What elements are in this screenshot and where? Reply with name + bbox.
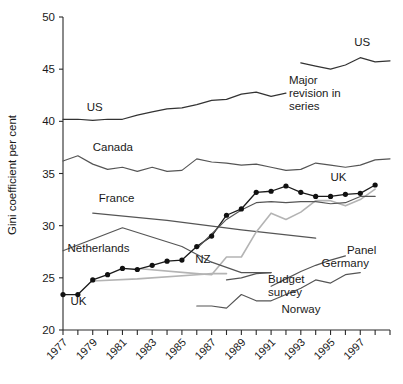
y-axis-tick-label: 50 (42, 11, 55, 23)
series-marker (239, 206, 244, 211)
major-revision-note-line: revision in (289, 87, 341, 99)
y-axis-tick-label: 25 (42, 272, 55, 284)
series-label-uk-secondary: UK (331, 171, 347, 183)
major-revision-note-line: series (289, 100, 320, 112)
series-marker (343, 192, 348, 197)
series-label-canada: Canada (93, 141, 134, 153)
series-label-germany: Germany (322, 257, 370, 269)
series-marker (209, 234, 214, 239)
series-marker (254, 190, 259, 195)
series-marker (194, 244, 199, 249)
series-label-budget-survey: Budgetsurvey (268, 273, 305, 298)
series-label-netherlands: Netherlands (68, 242, 130, 254)
series-marker (90, 277, 95, 282)
series-label-uk: UK (70, 295, 86, 307)
series-marker (135, 267, 140, 272)
gini-coefficient-line-chart: 20253035404550 1977197919811983198519871… (0, 0, 403, 384)
series-marker (328, 194, 333, 199)
y-axis-tick-label: 35 (42, 168, 55, 180)
y-axis-tick-label: 40 (42, 115, 55, 127)
series-marker (373, 182, 378, 187)
series-marker (283, 183, 288, 188)
series-marker (224, 213, 229, 218)
series-marker (60, 292, 65, 297)
y-axis-title: Gini coefficient per cent (6, 114, 18, 235)
series-label-france: France (99, 192, 135, 204)
y-axis-tick-label: 20 (42, 324, 55, 336)
major-revision-note-line: Major (289, 74, 318, 86)
series-marker (105, 272, 110, 277)
y-axis-tick-label: 45 (42, 63, 55, 75)
series-marker (120, 266, 125, 271)
series-marker (268, 189, 273, 194)
series-label-budget-survey-line: survey (268, 286, 302, 298)
series-marker (313, 194, 318, 199)
y-axis-title-group: Gini coefficient per cent (6, 114, 18, 235)
series-label-us: US (354, 36, 370, 48)
series-marker (358, 191, 363, 196)
series-marker (164, 259, 169, 264)
series-label-nz: NZ (195, 253, 210, 265)
series-label-us: US (87, 101, 103, 113)
chart-background (0, 0, 403, 384)
series-label-panel: Panel (347, 244, 376, 256)
series-marker (179, 258, 184, 263)
series-marker (298, 190, 303, 195)
series-label-norway: Norway (282, 303, 321, 315)
series-label-budget-survey-line: Budget (268, 273, 305, 285)
series-marker (150, 263, 155, 268)
y-axis-tick-label: 30 (42, 220, 55, 232)
